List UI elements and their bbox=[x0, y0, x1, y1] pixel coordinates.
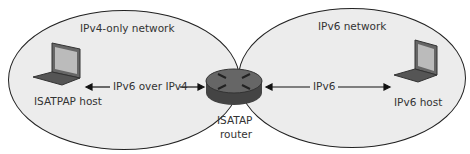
link-label-ipv6-over-ipv4: IPv6 over IPv4 bbox=[113, 80, 188, 92]
router-label-line2: router bbox=[220, 128, 252, 140]
network-label-ipv4: IPv4-only network bbox=[80, 22, 175, 34]
router-icon bbox=[206, 69, 262, 105]
link-label-ipv6: IPv6 bbox=[313, 80, 335, 92]
router-label-line1: ISATAP bbox=[217, 114, 252, 126]
laptop-icon bbox=[33, 43, 80, 85]
host-label-ipv6: IPv6 host bbox=[394, 96, 442, 108]
laptop-icon bbox=[394, 40, 437, 82]
host-label-isatap: ISATPAP host bbox=[34, 95, 102, 107]
network-label-ipv6: IPv6 network bbox=[318, 20, 386, 32]
